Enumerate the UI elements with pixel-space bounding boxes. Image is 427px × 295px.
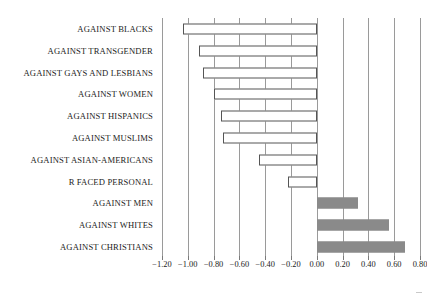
plot-area (162, 18, 420, 258)
x-tick-label: −0.60 (230, 260, 249, 269)
gridline-0.8 (420, 18, 421, 258)
x-tick-label: 0.60 (387, 260, 402, 269)
bar (199, 45, 316, 56)
gridline--1 (188, 18, 189, 258)
bar (317, 198, 358, 209)
x-tick-mark (368, 256, 369, 260)
category-label: AGAINST MEN (93, 198, 153, 208)
x-tick-label: 0.80 (413, 260, 427, 269)
x-tick-label: −0.80 (204, 260, 223, 269)
x-tick-label: −1.20 (152, 260, 171, 269)
x-axis-tick-labels: −1.20−1.00−0.80−0.60−0.40−0.200.000.200.… (162, 258, 420, 274)
category-label: AGAINST HISPANICS (67, 111, 153, 121)
x-tick-mark (291, 256, 292, 260)
x-tick-mark (214, 256, 215, 260)
category-label: AGAINST MUSLIMS (72, 133, 153, 143)
x-tick-mark (317, 256, 318, 260)
x-tick-mark (343, 256, 344, 260)
category-label: R FACED PERSONAL (69, 177, 153, 187)
corner-artifact (416, 292, 422, 293)
bar (214, 89, 317, 100)
x-tick-label: 0.40 (361, 260, 376, 269)
bar (221, 111, 316, 122)
bar (259, 154, 317, 165)
gridline--1.2 (162, 18, 163, 258)
bar (223, 133, 317, 144)
bar (317, 242, 405, 253)
x-tick-label: −0.40 (255, 260, 274, 269)
x-tick-mark (239, 256, 240, 260)
x-tick-mark (162, 256, 163, 260)
x-tick-label: −0.20 (281, 260, 300, 269)
bar (183, 23, 317, 34)
category-label: AGAINST WOMEN (78, 89, 153, 99)
x-tick-label: 0.20 (335, 260, 350, 269)
x-tick-label: 0.00 (309, 260, 324, 269)
category-label: AGAINST GAYS AND LESBIANS (23, 68, 153, 78)
x-tick-mark (265, 256, 266, 260)
category-label: AGAINST TRANSGENDER (48, 46, 153, 56)
bar (317, 220, 389, 231)
bar (288, 176, 316, 187)
category-label: AGAINST WHITES (79, 220, 153, 230)
gridline-0.6 (394, 18, 395, 258)
x-tick-mark (394, 256, 395, 260)
category-label: AGAINST CHRISTIANS (60, 242, 153, 252)
x-tick-mark (420, 256, 421, 260)
x-tick-label: −1.00 (178, 260, 197, 269)
bar (203, 67, 317, 78)
x-tick-mark (188, 256, 189, 260)
category-label: AGAINST BLACKS (77, 24, 153, 34)
category-label: AGAINST ASIAN-AMERICANS (31, 155, 153, 165)
